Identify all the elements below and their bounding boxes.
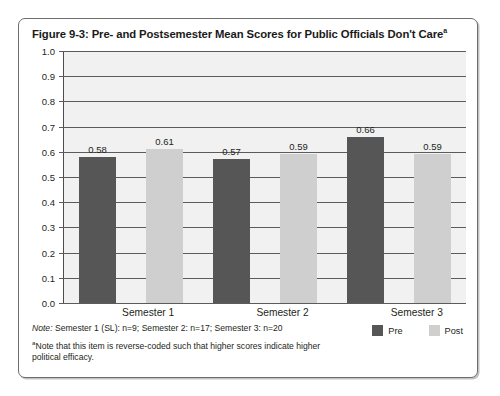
bar-pre-2: 0.57 <box>213 159 251 303</box>
y-axis-tick-label: 1.0 <box>42 46 55 57</box>
y-axis-tick-label: 0.9 <box>42 71 55 82</box>
figure-title: Figure 9-3: Pre- and Postsemester Mean S… <box>32 27 469 40</box>
y-axis-tick-label: 0.5 <box>42 172 55 183</box>
y-axis-tick-label: 0.6 <box>42 146 55 157</box>
legend-item-post: Post <box>429 325 463 336</box>
legend-label: Pre <box>388 326 402 336</box>
bar-value-label: 0.66 <box>356 124 375 135</box>
note-text: Semester 1 (SL): n=9; Semester 2: n=17; … <box>53 323 283 333</box>
chart-area: 1.00.90.80.70.60.50.40.30.20.10.0 0.580.… <box>32 51 466 303</box>
chart-legend: PrePost <box>372 325 463 336</box>
y-axis-tick-label: 0.3 <box>42 222 55 233</box>
category-label-1: Semester 1 <box>122 307 174 318</box>
legend-swatch-pre <box>372 325 383 336</box>
bars-layer: 0.580.610.570.590.660.59 <box>64 51 466 303</box>
figure-footer: Note: Semester 1 (SL): n=9; Semester 2: … <box>32 323 467 373</box>
y-axis-tick-label: 0.2 <box>42 247 55 258</box>
legend-item-pre: Pre <box>372 325 402 336</box>
category-axis: Semester 1Semester 2Semester 3 <box>63 307 497 323</box>
footnote-text: Note that this item is reverse-coded suc… <box>32 341 320 363</box>
note-prefix: Note: <box>32 323 53 333</box>
y-axis-tick-label: 0.7 <box>42 121 55 132</box>
legend-swatch-post <box>429 325 440 336</box>
figure-title-superscript: a <box>443 27 447 34</box>
figure-container: Figure 9-3: Pre- and Postsemester Mean S… <box>18 18 478 378</box>
bar-value-label: 0.58 <box>88 144 107 155</box>
plot-area: 0.580.610.570.590.660.59 <box>63 51 466 303</box>
figure-title-text: Figure 9-3: Pre- and Postsemester Mean S… <box>32 28 443 40</box>
legend-label: Post <box>445 326 463 336</box>
y-axis-tick-label: 0.0 <box>42 298 55 309</box>
y-axis-tick-mark <box>59 303 64 304</box>
bar-post-2: 0.59 <box>280 154 318 303</box>
bar-value-label: 0.59 <box>423 141 442 152</box>
category-label-3: Semester 3 <box>391 307 443 318</box>
y-axis-tick-label: 0.8 <box>42 96 55 107</box>
y-axis: 1.00.90.80.70.60.50.40.30.20.10.0 <box>32 51 59 303</box>
bar-pre-1: 0.58 <box>79 157 117 303</box>
y-axis-tick-label: 0.1 <box>42 272 55 283</box>
category-label-2: Semester 2 <box>256 307 308 318</box>
footnote-line: aNote that this item is reverse-coded su… <box>32 337 332 364</box>
gridline <box>64 303 466 304</box>
footnote-block: aNote that this item is reverse-coded su… <box>32 337 332 364</box>
bar-value-label: 0.59 <box>289 141 308 152</box>
bar-pre-3: 0.66 <box>347 137 385 303</box>
bar-value-label: 0.57 <box>222 146 241 157</box>
y-axis-tick-label: 0.4 <box>42 197 55 208</box>
bar-post-1: 0.61 <box>146 149 184 303</box>
bar-post-3: 0.59 <box>414 154 452 303</box>
bar-value-label: 0.61 <box>155 136 174 147</box>
